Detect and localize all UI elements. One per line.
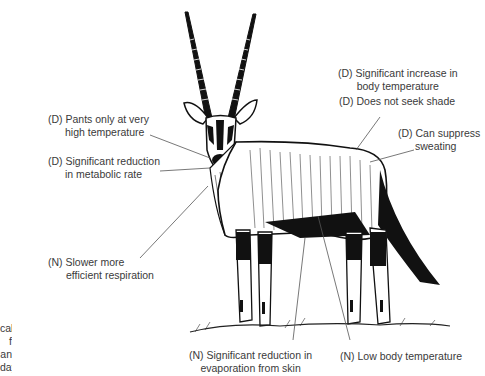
ground: [190, 324, 450, 332]
label-evaporation-line2: evaporation from skin: [189, 362, 312, 375]
label-metabolic-line2: in metabolic rate: [48, 168, 160, 181]
label-respiration-line1: (N) Slower more: [48, 256, 124, 268]
label-shade-line1: (D) Does not seek shade: [339, 95, 455, 107]
label-respiration: (N) Slower more efficient respiration: [48, 256, 154, 281]
label-evaporation: (N) Significant reduction in evaporation…: [189, 349, 312, 374]
label-low-body-temp: (N) Low body temperature: [340, 350, 462, 363]
label-metabolic-line1: (D) Significant reduction: [48, 155, 160, 167]
label-body-temp-increase: (D) Significant increase in body tempera…: [338, 67, 458, 92]
label-metabolic: (D) Significant reduction in metabolic r…: [48, 155, 160, 180]
label-sweating-line1: (D) Can suppress: [398, 127, 480, 139]
label-pants-line2: high temperature: [48, 126, 149, 139]
label-pants: (D) Pants only at very high temperature: [48, 113, 149, 138]
label-sweating: (D) Can suppress sweating: [398, 127, 480, 152]
label-sweating-line2: sweating: [398, 140, 480, 153]
label-body-temp-increase-line2: body temperature: [338, 80, 458, 93]
horns: [185, 12, 256, 120]
label-pants-line1: (D) Pants only at very: [48, 113, 149, 125]
caption-fragment-line3: day;: [0, 361, 12, 374]
label-respiration-line2: efficient respiration: [48, 269, 154, 282]
caption-fragment-line2: f an: [0, 335, 12, 361]
caption-fragment: cal f an day;: [0, 322, 12, 374]
oryx-figure: (D) Pants only at very high temperature …: [0, 0, 485, 376]
oryx-illustration: [0, 0, 485, 376]
label-evaporation-line1: (N) Significant reduction in: [189, 349, 312, 361]
label-body-temp-increase-line1: (D) Significant increase in: [338, 67, 458, 79]
label-low-body-temp-line1: (N) Low body temperature: [340, 350, 462, 362]
caption-fragment-line1: cal: [0, 322, 12, 335]
label-shade: (D) Does not seek shade: [339, 95, 455, 108]
